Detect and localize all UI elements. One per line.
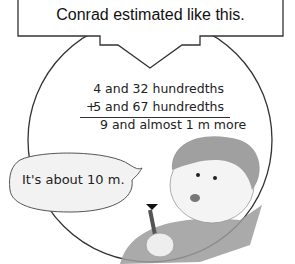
- sum-result: 9 and almost 1 m more: [70, 116, 230, 134]
- sum-rule-line: [80, 117, 230, 118]
- estimation-calculation: 4 and 32 hundredths + 5 and 67 hundredth…: [70, 80, 230, 134]
- plus-sign: +: [86, 98, 96, 116]
- addend-1: 4 and 32 hundredths: [70, 80, 230, 98]
- speech-bubble-text: It's about 10 m.: [22, 172, 132, 187]
- banner-title: Conrad estimated like this.: [18, 6, 283, 24]
